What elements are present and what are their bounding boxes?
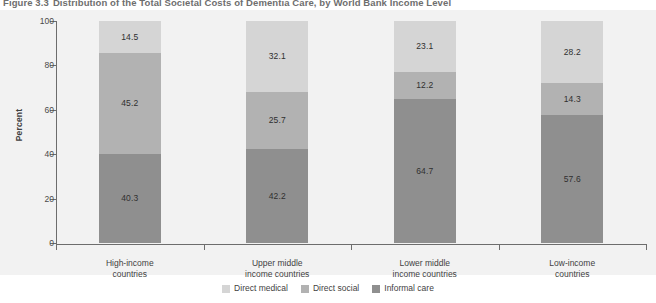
category-label-line: income countries bbox=[355, 269, 495, 280]
legend-label: Informal care bbox=[384, 284, 434, 293]
y-axis-tick-label: 60 bbox=[14, 106, 54, 114]
x-axis-tick bbox=[204, 244, 205, 250]
chart-legend: Direct medicalDirect socialInformal care bbox=[0, 284, 656, 293]
bar-segment[interactable]: 32.1 bbox=[246, 21, 308, 92]
legend-swatch-icon bbox=[222, 285, 230, 293]
legend-label: Direct social bbox=[313, 284, 359, 293]
bar-value-label: 40.3 bbox=[121, 194, 138, 203]
legend-item[interactable]: Direct medical bbox=[222, 284, 288, 293]
bars-container: 40.345.214.542.225.732.164.712.223.157.6… bbox=[56, 21, 646, 243]
bar-value-label: 57.6 bbox=[564, 175, 581, 184]
bar-segment[interactable]: 12.2 bbox=[394, 72, 456, 99]
legend-item[interactable]: Direct social bbox=[301, 284, 359, 293]
y-axis-tick-label: 80 bbox=[14, 61, 54, 69]
category-label-line: countries bbox=[502, 269, 642, 280]
bar-value-label: 25.7 bbox=[269, 116, 286, 125]
category-label-line: Upper middle bbox=[207, 258, 347, 269]
bar-segment[interactable]: 23.1 bbox=[394, 21, 456, 72]
figure-title: Figure 3.3Distribution of the Total Soci… bbox=[3, 0, 653, 10]
bar-segment[interactable]: 64.7 bbox=[394, 99, 456, 243]
bar-value-label: 12.2 bbox=[416, 81, 433, 90]
y-axis-title: Percent bbox=[14, 95, 24, 155]
figure-number: Figure 3.3 bbox=[3, 0, 49, 8]
bar-value-label: 14.5 bbox=[121, 33, 138, 42]
category-label-line: Lower middle bbox=[355, 258, 495, 269]
bar-value-label: 32.1 bbox=[269, 52, 286, 61]
y-axis-tick-label: 100 bbox=[14, 17, 54, 25]
bar-segment[interactable]: 14.3 bbox=[541, 83, 603, 115]
category-label-line: Low-income bbox=[502, 258, 642, 269]
bar-segment[interactable]: 40.3 bbox=[99, 154, 161, 243]
bar-value-label: 64.7 bbox=[416, 167, 433, 176]
bar-value-label: 14.3 bbox=[564, 95, 581, 104]
legend-label: Direct medical bbox=[234, 284, 288, 293]
bar-value-label: 45.2 bbox=[121, 99, 138, 108]
bar-group[interactable]: 64.712.223.1 bbox=[394, 21, 456, 243]
bar-segment[interactable]: 57.6 bbox=[541, 115, 603, 243]
bar-segment[interactable]: 45.2 bbox=[99, 53, 161, 153]
bar-segment[interactable]: 14.5 bbox=[99, 21, 161, 53]
y-axis-tick-label: 20 bbox=[14, 195, 54, 203]
bar-segment[interactable]: 25.7 bbox=[246, 92, 308, 149]
legend-swatch-icon bbox=[301, 285, 309, 293]
category-label-line: income countries bbox=[207, 269, 347, 280]
bar-group[interactable]: 40.345.214.5 bbox=[99, 21, 161, 243]
chart-plot-area: Percent 020406080100 40.345.214.542.225.… bbox=[0, 10, 656, 275]
y-axis-tick-label: 40 bbox=[14, 150, 54, 158]
x-axis-category-label: High-incomecountries bbox=[60, 258, 200, 280]
x-axis-category-label: Low-incomecountries bbox=[502, 258, 642, 280]
bar-segment[interactable]: 28.2 bbox=[541, 21, 603, 84]
x-axis-tick bbox=[646, 244, 647, 250]
x-axis-category-label: Lower middleincome countries bbox=[355, 258, 495, 280]
bar-value-label: 28.2 bbox=[564, 48, 581, 57]
bar-value-label: 23.1 bbox=[416, 42, 433, 51]
x-axis-tick bbox=[351, 244, 352, 250]
bar-value-label: 42.2 bbox=[269, 192, 286, 201]
x-axis-tick bbox=[56, 244, 57, 250]
x-axis-category-label: Upper middleincome countries bbox=[207, 258, 347, 280]
x-axis-tick bbox=[499, 244, 500, 250]
y-axis-tick-label: 0 bbox=[14, 239, 54, 247]
bar-group[interactable]: 42.225.732.1 bbox=[246, 21, 308, 243]
category-label-line: High-income bbox=[60, 258, 200, 269]
legend-item[interactable]: Informal care bbox=[372, 284, 434, 293]
bar-group[interactable]: 57.614.328.2 bbox=[541, 21, 603, 243]
legend-swatch-icon bbox=[372, 285, 380, 293]
figure-title-text: Distribution of the Total Societal Costs… bbox=[53, 0, 451, 8]
bar-segment[interactable]: 42.2 bbox=[246, 149, 308, 243]
category-label-line: countries bbox=[60, 269, 200, 280]
